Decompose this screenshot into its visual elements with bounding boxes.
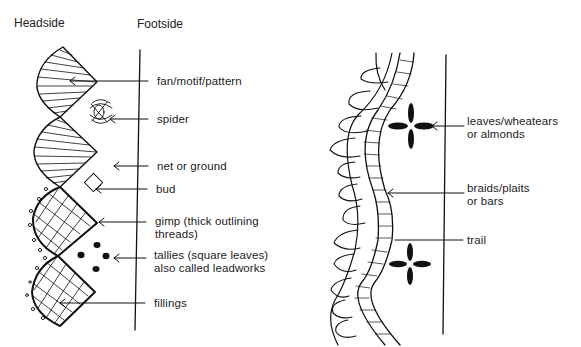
label-leaves-line1: leaves/wheatears <box>467 115 558 128</box>
leaves-icon <box>388 103 434 149</box>
braid-band <box>355 53 414 345</box>
label-tallies: tallies (square leaves) also called lead… <box>154 249 268 275</box>
label-gimp-line1: gimp (thick outlining <box>155 215 259 228</box>
filling <box>32 256 95 326</box>
lace-diagram <box>0 0 581 347</box>
label-bud: bud <box>156 183 176 196</box>
label-gimp: gimp (thick outlining threads) <box>155 215 259 241</box>
leaves-icon-2 <box>389 243 431 285</box>
fan-motif-2 <box>34 117 97 187</box>
tallies-icon <box>78 242 110 272</box>
label-braids-line2: or bars <box>467 195 530 208</box>
label-tallies-line1: tallies (square leaves) <box>154 249 268 262</box>
label-trail: trail <box>467 234 486 247</box>
label-fillings: fillings <box>154 297 187 310</box>
label-gimp-line2: threads) <box>155 228 259 241</box>
label-braids-line1: braids/plaits <box>467 182 530 195</box>
right-footside-line <box>443 55 446 334</box>
label-leaves-line2: or almonds <box>467 128 558 141</box>
right-leaders <box>388 122 464 240</box>
footside-header: Footside <box>137 17 183 31</box>
right-lace-diagram <box>330 53 464 345</box>
label-net: net or ground <box>157 160 227 173</box>
fan-motif <box>37 47 97 117</box>
label-leaves: leaves/wheatears or almonds <box>467 115 558 141</box>
left-lace-diagram <box>26 47 148 330</box>
gimp-filling <box>33 187 97 256</box>
label-braids: braids/plaits or bars <box>467 182 530 208</box>
footside-line <box>135 50 140 330</box>
spider-icon <box>90 100 112 124</box>
label-tallies-line2: also called leadworks <box>154 262 268 275</box>
headside-header: Headside <box>14 16 65 30</box>
label-fan: fan/motif/pattern <box>157 75 242 88</box>
label-spider: spider <box>157 113 189 126</box>
